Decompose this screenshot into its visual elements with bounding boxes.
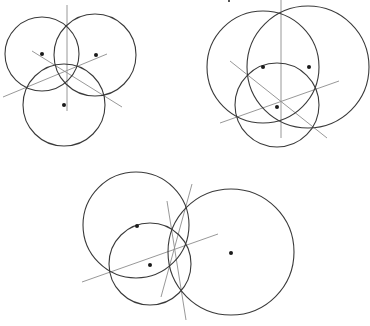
center-point xyxy=(307,65,311,69)
center-point xyxy=(275,105,279,109)
center-point xyxy=(40,52,44,56)
stray-mark xyxy=(228,0,230,2)
center-point xyxy=(135,224,139,228)
diagram-canvas xyxy=(0,0,370,326)
background xyxy=(0,0,370,326)
center-point xyxy=(148,263,152,267)
center-point xyxy=(261,65,265,69)
center-point xyxy=(229,251,233,255)
center-point xyxy=(94,53,98,57)
center-point xyxy=(62,103,66,107)
